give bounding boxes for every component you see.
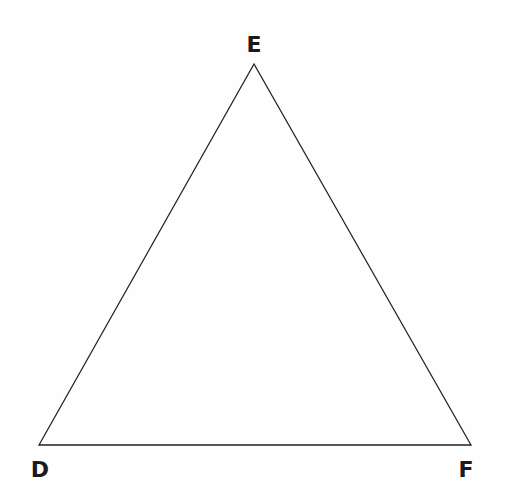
vertex-label-e: E xyxy=(246,32,261,57)
vertex-label-d: D xyxy=(31,457,49,482)
triangle-diagram: E D F xyxy=(0,0,507,503)
vertex-label-f: F xyxy=(458,457,473,482)
triangle-def xyxy=(39,64,471,445)
